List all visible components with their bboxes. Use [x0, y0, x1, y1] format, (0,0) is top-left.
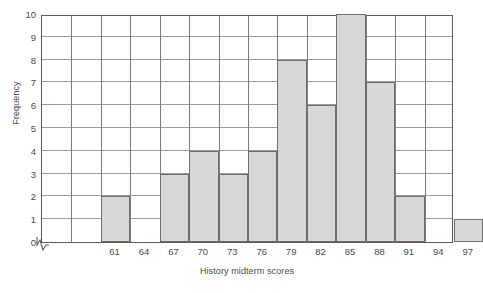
y-axis-tick-label: 4: [16, 147, 36, 157]
x-axis-title: History midterm scores: [41, 266, 453, 276]
x-axis-tick-label: 61: [109, 247, 120, 257]
histogram-bar: [189, 151, 218, 242]
x-axis-tick-label: 64: [139, 247, 150, 257]
histogram-bar: [454, 219, 483, 242]
plot-area: [41, 15, 453, 243]
x-axis-tick-label: 94: [433, 247, 444, 257]
x-axis-tick-label: 97: [462, 247, 473, 257]
y-axis-tick-label: 6: [16, 101, 36, 111]
axis-break-icon: [36, 236, 50, 252]
histogram-bar: [366, 82, 395, 242]
x-axis-tick-label: 82: [315, 247, 326, 257]
histogram-bar: [307, 105, 336, 242]
y-axis-tick-label: 0: [16, 238, 36, 248]
histogram-bar: [160, 174, 189, 242]
y-axis-tick-label: 2: [16, 193, 36, 203]
y-axis-tick-label: 1: [16, 215, 36, 225]
x-axis-tick-label: 88: [374, 247, 385, 257]
histogram-bar: [248, 151, 277, 242]
x-axis-tick-label: 76: [256, 247, 267, 257]
histogram-bar: [277, 60, 306, 242]
y-axis-tick-label: 3: [16, 170, 36, 180]
y-axis-tick-label: 5: [16, 124, 36, 134]
histogram-bar: [101, 196, 130, 242]
x-axis-tick-label: 79: [286, 247, 297, 257]
x-axis-tick-labels: 61646770737679828588919497: [41, 247, 453, 261]
x-axis-tick-label: 73: [227, 247, 238, 257]
histogram-bar: [336, 14, 365, 242]
histogram-bar: [219, 174, 248, 242]
bars-layer: [42, 16, 452, 242]
y-axis-tick-label: 10: [16, 10, 36, 20]
y-axis-tick-label: 7: [16, 79, 36, 89]
x-axis-tick-label: 70: [198, 247, 209, 257]
y-axis-tick-labels: 012345678910: [16, 15, 36, 243]
x-axis-tick-label: 67: [168, 247, 179, 257]
x-axis-tick-label: 85: [345, 247, 356, 257]
y-axis-tick-label: 9: [16, 33, 36, 43]
x-axis-tick-label: 91: [404, 247, 415, 257]
histogram-bar: [395, 196, 424, 242]
y-axis-tick-label: 8: [16, 56, 36, 66]
